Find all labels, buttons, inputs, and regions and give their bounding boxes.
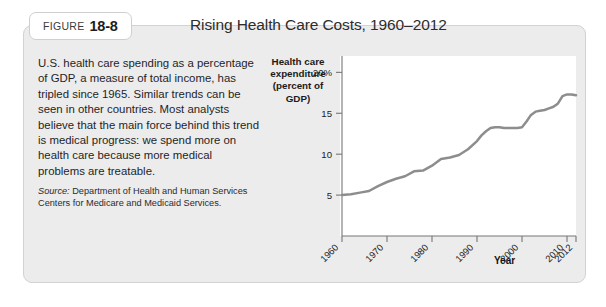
figure-page: FIGURE 18-8 Rising Health Care Costs, 19…: [0, 0, 606, 307]
y-axis-tick-label: 20%: [313, 67, 333, 78]
caption-source: Source: Department of Health and Human S…: [38, 186, 262, 209]
caption-body-text: U.S. health care spending as a percentag…: [38, 56, 262, 179]
x-axis-tick-label: 1980: [408, 242, 431, 265]
source-text: Department of Health and Human Services …: [38, 186, 247, 207]
chart-svg: 5101520% 1960197019801990200020102012: [262, 52, 580, 277]
figure-title: Rising Health Care Costs, 1960–2012: [190, 16, 447, 34]
x-axis-tick-label: 1970: [363, 242, 386, 265]
health-expenditure-chart: Health care expenditure (percent of GDP)…: [262, 52, 580, 277]
figure-caption: U.S. health care spending as a percentag…: [38, 56, 262, 209]
y-axis-tick-label: 10: [321, 149, 332, 160]
health-expenditure-line: [342, 94, 576, 195]
figure-label-word: FIGURE: [43, 20, 84, 32]
chart-axes: [342, 56, 576, 236]
figure-number-tab: FIGURE 18-8: [29, 12, 132, 40]
data-series-group: [342, 94, 576, 195]
y-axis-tick-label: 15: [321, 108, 332, 119]
source-label: Source:: [38, 186, 70, 196]
x-axis-tick-label: 1960: [318, 242, 341, 265]
figure-number: 18-8: [89, 18, 117, 34]
y-axis-ticks: 5101520%: [313, 67, 342, 201]
x-axis-title: Year: [494, 255, 515, 266]
y-axis-tick-label: 5: [327, 190, 332, 201]
x-axis-ticks: 1960197019801990200020102012: [318, 236, 576, 264]
x-axis-tick-label: 1990: [453, 242, 476, 265]
